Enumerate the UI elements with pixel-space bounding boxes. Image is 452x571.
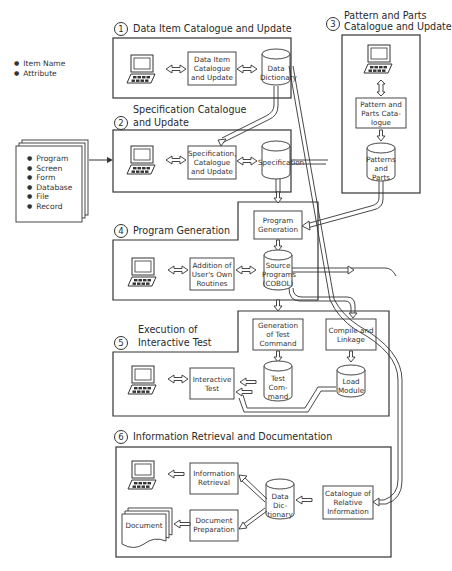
list-item: Attribute	[14, 69, 65, 79]
test-command-generation-process: Generationof TestCommand	[253, 321, 303, 348]
interactive-test-process: InteractiveTest	[190, 375, 234, 393]
list-item: Item Name	[14, 59, 65, 69]
list-item: Record	[27, 202, 72, 212]
list-item: File	[27, 192, 72, 202]
patterns-parts-store: PatternsandParts	[366, 155, 396, 182]
section-5-title-line1: Execution of	[138, 324, 197, 335]
section-2-title-line1: Specification Catalogue	[133, 104, 246, 115]
section-4-number: 4	[114, 224, 128, 238]
list-item: Form	[27, 173, 72, 183]
section-3-title-line2: Catalogue and Update	[344, 21, 452, 32]
section-5-number: 5	[114, 336, 128, 350]
section-1-number: 1	[114, 22, 128, 36]
section-3-number: 3	[326, 17, 340, 31]
spec-item-list: Program Screen Form Database File Record	[27, 154, 72, 211]
data-item-catalogue-process: Data ItemCatalogueand Update	[188, 55, 236, 82]
specification-catalogue-process: Specification,Catalogueand Update	[188, 149, 236, 176]
document-preparation-process: DocumentPreparation	[190, 516, 238, 534]
program-generation-process: ProgramGeneration	[254, 216, 302, 234]
test-command-store: TestCom-mand	[264, 374, 292, 401]
pattern-parts-catalogue-process: Pattern andParts Cata-logue	[356, 100, 406, 127]
list-item: Database	[27, 183, 72, 193]
section-1-title: Data Item Catalogue and Update	[133, 23, 292, 34]
specification-store: Specification	[258, 158, 294, 167]
section-2-title-line2: and Update	[133, 117, 189, 128]
section-5-title-line2: Interactive Test	[138, 337, 212, 348]
data-item-list: Item Name Attribute	[14, 59, 65, 78]
source-programs-store: SourcePrograms(COBOL)	[262, 261, 294, 288]
compile-linkage-process: Compile andLinkage	[326, 326, 376, 344]
list-item: Program	[27, 154, 72, 164]
document-output: Document	[122, 521, 166, 530]
section-6-number: 6	[114, 430, 128, 444]
load-module-store: LoadModule	[337, 377, 365, 395]
data-dictionary-store-6: DataDic-tionary	[266, 492, 294, 519]
information-retrieval-process: InformationRetrieval	[190, 469, 238, 487]
list-item: Screen	[27, 164, 72, 174]
section-4-title: Program Generation	[133, 225, 230, 236]
section-2-number: 2	[114, 116, 128, 130]
section-6-title: Information Retrieval and Documentation	[133, 431, 332, 442]
relative-information-catalogue-process: Catalogue ofRelativeInformation	[323, 489, 373, 516]
section-3-title-line1: Pattern and Parts	[344, 10, 427, 21]
data-dictionary-store: DataDictionary	[260, 64, 292, 82]
user-routines-process: Addition ofUser's OwnRoutines	[190, 261, 234, 288]
